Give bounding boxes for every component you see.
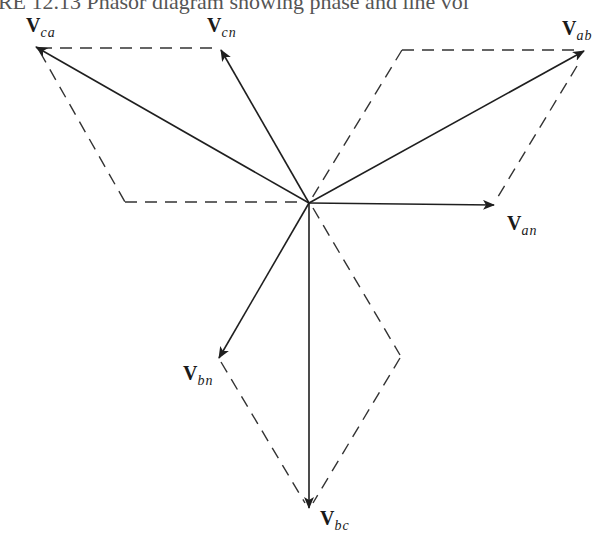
label-v-bc: Vbc <box>320 507 350 534</box>
phasor-arrows <box>36 47 584 508</box>
label-v-an: Van <box>507 212 537 239</box>
dashed-line <box>221 362 305 503</box>
label-v-bn: Vbn <box>183 362 213 389</box>
dashed-line <box>313 208 400 355</box>
phasor-v-ca <box>36 47 309 203</box>
dashed-line <box>313 358 400 503</box>
dashed-line <box>40 52 125 202</box>
dashed-construction-lines <box>40 48 580 503</box>
label-v-cn: Vcn <box>207 14 237 41</box>
phasor-v-cn <box>221 50 309 203</box>
label-v-ab: Vab <box>562 17 592 44</box>
phasor-v-bn <box>219 203 309 358</box>
phasor-v-ab <box>309 51 584 203</box>
label-v-ca: Vca <box>26 14 56 41</box>
phasor-v-an <box>309 203 494 205</box>
dashed-line <box>496 66 577 200</box>
